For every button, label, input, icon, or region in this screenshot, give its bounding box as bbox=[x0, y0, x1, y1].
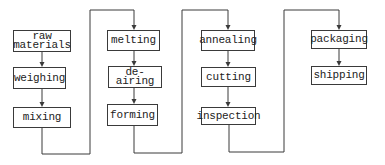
process-step-packaging: packaging bbox=[311, 30, 367, 49]
process-step-forming: forming bbox=[107, 104, 158, 126]
process-step-inspection: inspection bbox=[201, 107, 256, 125]
process-step-de-airing: de-airing bbox=[108, 66, 162, 88]
process-step-annealing: annealing bbox=[201, 30, 255, 51]
glass-manufacturing-flowchart: raw materialsweighingmixingmeltingde-air… bbox=[0, 0, 385, 165]
process-step-melting: melting bbox=[107, 30, 160, 51]
process-step-weighing: weighing bbox=[13, 67, 66, 89]
process-step-shipping: shipping bbox=[311, 66, 367, 85]
process-step-raw-materials: raw materials bbox=[13, 30, 71, 52]
process-step-mixing: mixing bbox=[13, 107, 71, 128]
process-step-cutting: cutting bbox=[201, 67, 256, 87]
